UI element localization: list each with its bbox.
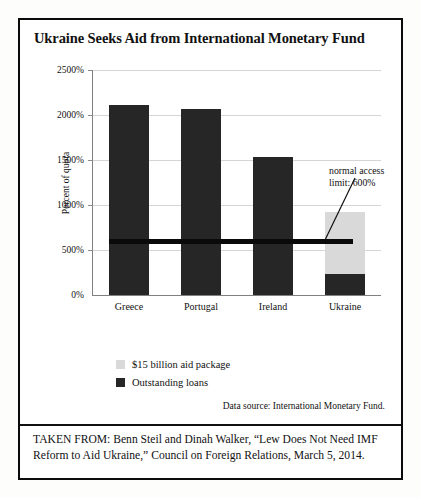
data-source-note: Data source: International Monetary Fund…	[223, 401, 385, 411]
legend-item-outstanding-loans: Outstanding loans	[116, 374, 230, 390]
bar-ireland-outstanding-loans[interactable]	[253, 157, 293, 295]
xtick-label-greece: Greece	[115, 301, 143, 312]
xtick-label-ireland: Ireland	[259, 301, 287, 312]
ytick-label-2500: 2500%	[57, 65, 84, 75]
annotation-line-2: limit: 600%	[329, 177, 384, 189]
threshold-line-600	[109, 239, 353, 244]
chart-legend: $15 billion aid package Outstanding loan…	[116, 356, 230, 392]
annotation-line-1: normal access	[329, 165, 384, 177]
legend-swatch-outstanding-loans	[116, 378, 125, 387]
legend-swatch-aid-package	[116, 360, 125, 369]
ytick-label-1500: 1500%	[57, 155, 84, 165]
ytick-label-2000: 2000%	[57, 110, 84, 120]
bar-portugal-outstanding-loans[interactable]	[181, 109, 221, 295]
chart-card: Ukraine Seeks Aid from International Mon…	[20, 20, 401, 402]
ytick-label-0: 0%	[71, 290, 84, 300]
annotation-normal-access-limit: normal access limit: 600%	[329, 165, 384, 188]
caption-divider	[20, 424, 401, 426]
bar-greece-outstanding-loans[interactable]	[109, 105, 149, 295]
bar-slot-greece[interactable]: Greece	[93, 70, 165, 295]
chart-title: Ukraine Seeks Aid from International Mon…	[34, 30, 365, 47]
xtick-label-ukraine: Ukraine	[329, 301, 361, 312]
legend-item-aid-package: $15 billion aid package	[116, 356, 230, 372]
bar-ukraine-outstanding-loans[interactable]	[325, 274, 365, 295]
ytick-label-1000: 1000%	[57, 200, 84, 210]
figure-caption: TAKEN FROM: Benn Steil and Dinah Walker,…	[33, 432, 388, 465]
legend-label-outstanding-loans: Outstanding loans	[132, 377, 208, 388]
bar-slot-ireland[interactable]: Ireland	[237, 70, 309, 295]
plot-area: Percent of quota 2500% 2000% 1500% 1000%…	[92, 70, 381, 296]
figure-frame: Ukraine Seeks Aid from International Mon…	[18, 18, 403, 480]
legend-label-aid-package: $15 billion aid package	[132, 359, 230, 370]
ytick-label-500: 500%	[62, 245, 84, 255]
bar-slot-portugal[interactable]: Portugal	[165, 70, 237, 295]
xtick-label-portugal: Portugal	[184, 301, 218, 312]
